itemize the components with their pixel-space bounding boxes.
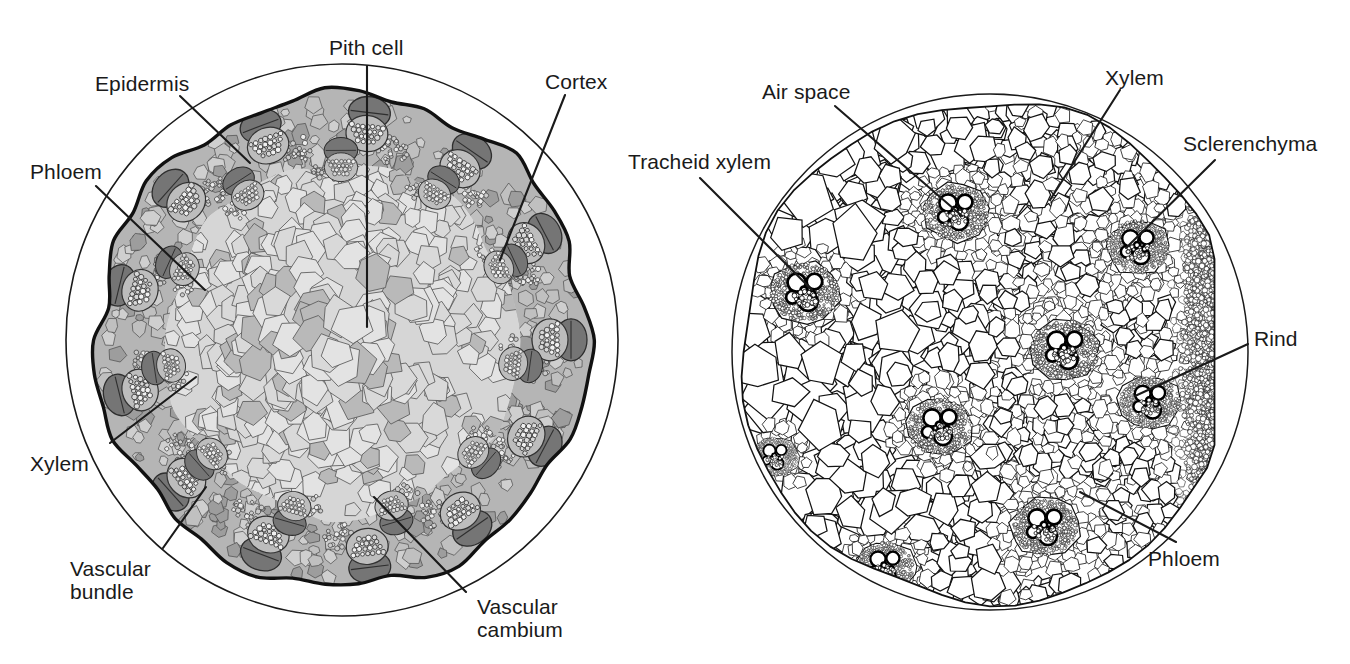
right-panel-micrograph	[700, 90, 1248, 613]
label-sclerenchyma: Sclerenchyma	[1183, 132, 1317, 155]
label-rind: Rind	[1254, 327, 1298, 350]
label-tracheid-xylem: Tracheid xylem	[628, 150, 771, 173]
label-cortex: Cortex	[545, 70, 607, 93]
label-xylem-left: Xylem	[30, 452, 89, 475]
label-air-space: Air space	[762, 80, 850, 103]
label-pith-cell: Pith cell	[329, 36, 403, 59]
label-phloem-right: Phloem	[1148, 547, 1220, 570]
label-vascular-bundle: Vascular bundle	[70, 557, 151, 603]
label-epidermis: Epidermis	[95, 72, 189, 95]
label-phloem-left: Phloem	[30, 160, 102, 183]
label-vascular-cambium: Vascular cambium	[477, 595, 563, 641]
label-xylem-right: Xylem	[1105, 66, 1164, 89]
left-stem-body	[92, 87, 594, 586]
left-panel-schematic	[66, 64, 618, 616]
